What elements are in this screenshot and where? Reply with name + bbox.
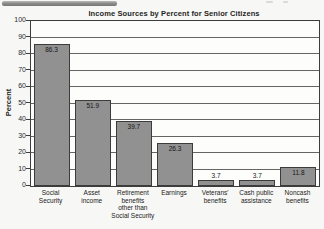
bar-value-label: 51.9 [75, 102, 111, 109]
scan-artifact-speck [266, 1, 273, 3]
bar-value-label: 26.3 [157, 145, 193, 152]
chart-title: Income Sources by Percent for Senior Cit… [30, 9, 318, 18]
y-axis-tick [26, 152, 30, 153]
x-axis-category-label: Noncash benefits [270, 189, 324, 204]
y-axis-tick [26, 185, 30, 186]
y-axis-tick-label: 0 [6, 181, 26, 188]
gridline [31, 70, 319, 71]
y-axis-tick-label: 30 [6, 132, 26, 139]
y-axis-tick-label: 80 [6, 49, 26, 56]
plot-area: 86.351.939.726.33.73.711.8 [30, 20, 320, 187]
bar [239, 180, 275, 186]
y-axis-tick [26, 119, 30, 120]
y-axis-tick-label: 50 [6, 99, 26, 106]
y-axis-tick [26, 168, 30, 169]
scanned-bar-chart-page: Income Sources by Percent for Senior Cit… [0, 0, 324, 229]
bar-value-label: 3.7 [239, 172, 275, 179]
y-axis-tick [26, 102, 30, 103]
bar [116, 121, 152, 187]
y-axis-tick-label: 90 [6, 33, 26, 40]
bar-value-label: 3.7 [198, 172, 234, 179]
y-axis-tick [26, 36, 30, 37]
scan-artifact-speck [283, 1, 288, 3]
y-axis-tick-label: 40 [6, 115, 26, 122]
y-axis-tick [26, 69, 30, 70]
bar-value-label: 86.3 [34, 46, 70, 53]
bar [34, 44, 70, 186]
y-axis-tick-label: 20 [6, 148, 26, 155]
bar-value-label: 11.8 [280, 169, 316, 176]
y-axis-tick [26, 86, 30, 87]
gridline [31, 37, 319, 38]
y-axis-tick [26, 135, 30, 136]
y-axis-tick-label: 70 [6, 66, 26, 73]
bar-value-label: 39.7 [116, 123, 152, 130]
bar [198, 180, 234, 186]
scan-artifact-bar [2, 1, 117, 6]
y-axis-tick-label: 10 [6, 165, 26, 172]
y-axis-tick [26, 53, 30, 54]
gridline [31, 53, 319, 54]
gridline [31, 86, 319, 87]
bar [75, 100, 111, 186]
y-axis-tick-label: 60 [6, 82, 26, 89]
y-axis-tick [26, 20, 30, 21]
y-axis-tick-label: 100 [6, 16, 26, 23]
